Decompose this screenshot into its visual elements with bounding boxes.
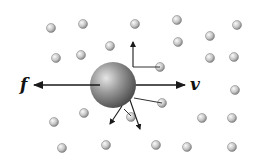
collision-arrow — [110, 106, 122, 124]
bath-particle — [127, 113, 136, 122]
bath-particle — [152, 141, 161, 150]
bath-particle — [79, 20, 88, 29]
bath-particle — [50, 118, 59, 127]
bath-particle — [52, 54, 61, 63]
bath-particle — [106, 42, 115, 51]
collision-line — [134, 98, 162, 103]
force-label: f — [20, 76, 27, 93]
bath-particle — [183, 143, 192, 152]
velocity-label: v — [190, 76, 200, 93]
bath-particle — [230, 53, 239, 62]
bath-particles — [47, 16, 242, 153]
bath-particle — [131, 20, 140, 29]
brownian-particle-diagram: f v — [0, 0, 256, 162]
bath-particle — [174, 38, 183, 47]
bath-particle — [228, 114, 237, 123]
bath-particle — [102, 141, 111, 150]
bath-particle — [206, 54, 215, 63]
bath-particle — [233, 21, 242, 30]
bath-particle — [198, 114, 207, 123]
bath-particle — [77, 51, 86, 60]
bath-particle — [173, 16, 182, 25]
diagram-canvas — [0, 0, 256, 162]
bath-particle — [228, 143, 237, 152]
bath-particle — [206, 32, 215, 41]
bath-particle — [231, 86, 240, 95]
bath-particle — [80, 109, 89, 118]
bath-particle — [58, 144, 67, 153]
bath-particle — [47, 24, 56, 33]
